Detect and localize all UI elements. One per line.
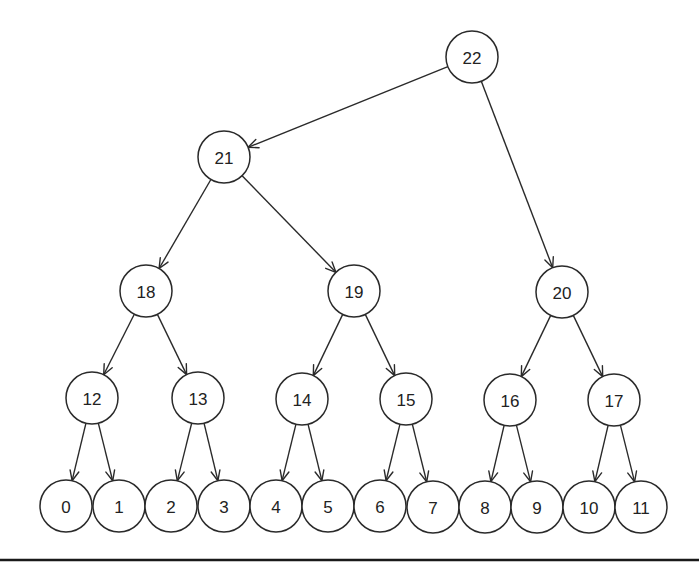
node-label: 22 [463,49,482,68]
edge-13-to-3 [204,423,220,480]
edge-15-to-6 [384,424,400,480]
edge-line [313,314,342,375]
edge-12-to-1 [98,423,114,481]
node-label: 16 [501,392,520,411]
tree-node-1: 1 [93,480,145,532]
edge-19-to-14 [313,314,342,375]
tree-node-12: 12 [66,372,118,424]
node-label: 4 [271,498,280,517]
node-label: 5 [323,498,332,517]
edge-21-to-19 [242,176,336,273]
node-label: 21 [215,149,234,168]
nodes-layer: 222118192012131415161701234567891011 [40,31,667,533]
tree-node-20: 20 [536,266,588,318]
node-label: 10 [580,499,599,518]
tree-node-16: 16 [484,374,536,426]
edge-18-to-12 [104,314,135,375]
edge-16-to-9 [516,425,532,482]
node-label: 18 [137,283,156,302]
tree-diagram: 222118192012131415161701234567891011 [0,0,699,570]
edge-19-to-15 [365,314,394,375]
node-label: 2 [166,498,175,517]
node-label: 3 [219,498,228,517]
node-label: 0 [61,498,70,517]
edge-15-to-7 [412,424,428,482]
edge-16-to-8 [489,425,504,481]
tree-node-6: 6 [354,480,406,532]
tree-node-17: 17 [588,374,640,426]
tree-node-8: 8 [459,481,511,533]
tree-node-3: 3 [198,480,250,532]
node-label: 6 [375,498,384,517]
edge-line [157,314,186,374]
node-label: 8 [480,499,489,518]
tree-node-2: 2 [145,480,197,532]
node-label: 19 [345,283,364,302]
node-label: 9 [532,499,541,518]
edge-21-to-18 [159,180,211,269]
node-label: 17 [605,392,624,411]
edge-12-to-0 [70,423,86,480]
node-label: 15 [397,391,416,410]
edge-22-to-21 [248,67,448,148]
arrowhead-icon [159,258,168,269]
tree-node-15: 15 [380,373,432,425]
edge-line [365,314,394,375]
node-label: 14 [293,391,312,410]
edge-22-to-20 [481,81,553,267]
node-label: 13 [189,390,208,409]
edge-13-to-2 [175,423,191,481]
edge-17-to-11 [620,425,636,482]
node-label: 7 [428,499,437,518]
tree-node-14: 14 [276,373,328,425]
tree-node-18: 18 [120,265,172,317]
edge-20-to-17 [573,315,602,376]
edge-line [521,315,550,376]
node-label: 11 [632,499,650,518]
edge-line [248,67,448,148]
node-label: 20 [553,284,572,303]
edge-20-to-16 [521,315,550,376]
tree-node-11: 11 [615,481,667,533]
node-label: 1 [114,498,123,517]
edge-line [481,81,552,267]
edge-line [159,180,211,269]
tree-node-0: 0 [40,480,92,532]
edge-14-to-5 [308,424,324,480]
edge-18-to-13 [157,314,186,374]
tree-node-9: 9 [511,481,563,533]
edge-17-to-10 [593,425,608,481]
tree-node-22: 22 [446,31,498,83]
node-label: 12 [83,390,102,409]
tree-node-5: 5 [302,480,354,532]
tree-node-13: 13 [172,372,224,424]
tree-node-4: 4 [250,480,302,532]
tree-node-7: 7 [407,481,459,533]
edge-line [242,176,336,273]
tree-node-10: 10 [563,481,615,533]
tree-node-21: 21 [198,131,250,183]
edge-14-to-4 [280,424,296,480]
tree-node-19: 19 [328,265,380,317]
edge-line [104,314,135,375]
edge-line [573,315,602,376]
